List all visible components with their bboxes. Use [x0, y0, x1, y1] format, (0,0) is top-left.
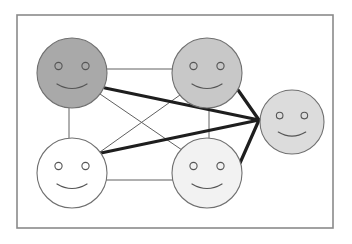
face-circle — [260, 90, 324, 154]
face-circle — [37, 38, 107, 108]
face-right — [260, 90, 324, 154]
face-bottom-middle — [172, 138, 242, 208]
face-circle — [37, 138, 107, 208]
face-circle — [172, 138, 242, 208]
network-diagram — [0, 0, 352, 244]
face-bottom-left — [37, 138, 107, 208]
face-top-middle — [172, 38, 242, 108]
face-top-left — [37, 38, 107, 108]
face-circle — [172, 38, 242, 108]
